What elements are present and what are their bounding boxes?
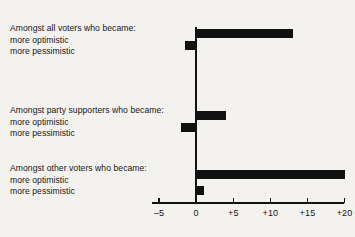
x-tick-mark <box>270 198 271 203</box>
bar-party-supporters-optimistic <box>196 111 226 120</box>
x-tick-label: +10 <box>262 208 278 218</box>
x-tick-label: 0 <box>194 208 199 218</box>
x-tick-mark <box>307 198 308 203</box>
bar-all-voters-optimistic <box>196 29 292 38</box>
x-tick-mark <box>233 198 234 203</box>
bar-party-supporters-pessimistic <box>181 123 196 132</box>
x-tick-label: +5 <box>228 208 239 218</box>
x-tick-mark <box>196 198 197 203</box>
plot-area: –50+5+10+15+20 <box>0 0 355 237</box>
bar-other-voters-optimistic <box>196 170 344 179</box>
bar-chart: Amongst all voters who became: more opti… <box>0 0 355 237</box>
x-tick-label: –5 <box>154 208 164 218</box>
x-tick-label: +20 <box>337 208 353 218</box>
x-tick-mark <box>158 198 159 203</box>
bar-other-voters-pessimistic <box>196 186 203 195</box>
x-tick-mark <box>344 198 345 203</box>
bar-all-voters-pessimistic <box>185 41 196 50</box>
x-tick-label: +15 <box>300 208 316 218</box>
x-axis-line <box>152 202 344 203</box>
